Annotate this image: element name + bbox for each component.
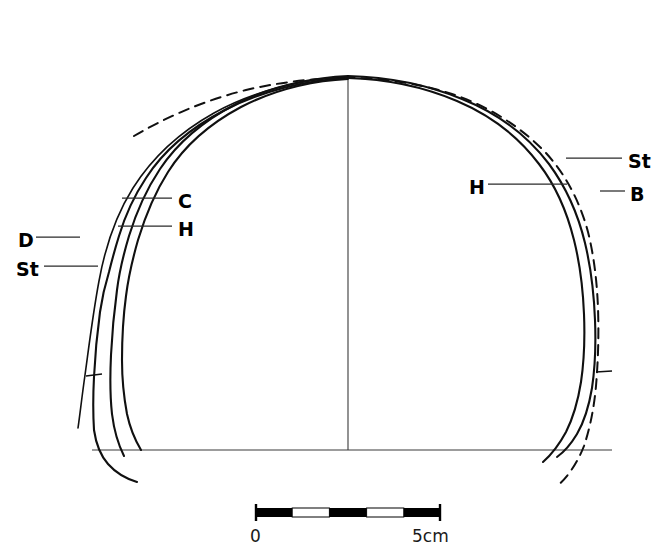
label-B: B — [630, 183, 644, 205]
scale-segment-1 — [255, 508, 292, 517]
label-C: C — [178, 190, 192, 212]
label-H-right: H — [469, 176, 485, 198]
scale-segment-3 — [329, 508, 366, 517]
label-H-left: H — [178, 218, 194, 240]
label-D: D — [18, 229, 34, 251]
scale-label-end: 5cm — [412, 526, 449, 546]
figure-container: C H D St St B H — [0, 0, 668, 559]
label-St-right: St — [628, 150, 651, 172]
tick-mark-right — [596, 371, 612, 372]
scale-segment-4 — [367, 508, 404, 517]
scale-segment-5 — [404, 508, 441, 517]
profile-drawing: C H D St St B H — [0, 0, 668, 559]
scale-segment-2 — [292, 508, 329, 517]
label-St-left: St — [16, 258, 39, 280]
scale-label-start: 0 — [250, 526, 261, 546]
